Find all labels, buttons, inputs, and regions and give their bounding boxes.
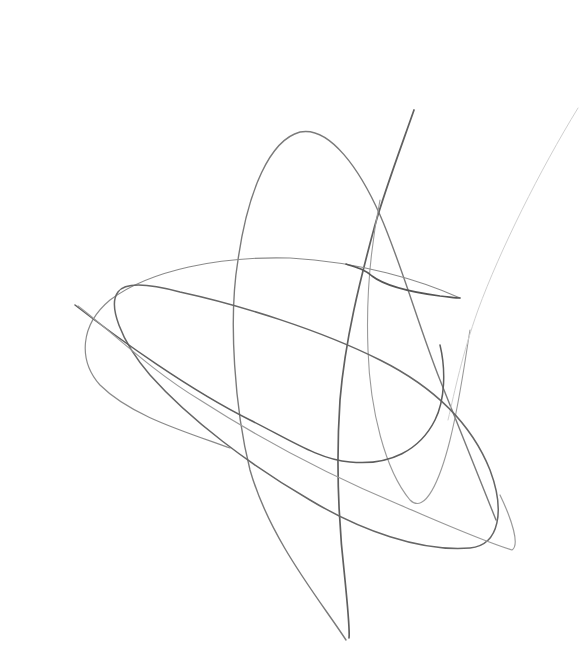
- tall-loop-stroke: [233, 131, 496, 640]
- diagonal-stroke-b: [78, 306, 515, 550]
- sketch-canvas: Abstract pencil scribble of overlapping …: [0, 0, 579, 656]
- steep-stroke: [338, 110, 414, 638]
- pencil-sketch: [0, 0, 579, 656]
- diagonal-stroke-a: [75, 305, 444, 463]
- slanted-ellipse-stroke: [115, 285, 499, 548]
- faint-arc-stroke: [448, 108, 578, 420]
- wide-ellipse-stroke: [85, 258, 460, 448]
- narrow-loop-stroke: [368, 200, 471, 504]
